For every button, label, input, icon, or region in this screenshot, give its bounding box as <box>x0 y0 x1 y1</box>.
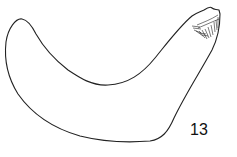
figure-drawing: 13 <box>0 0 237 157</box>
hair-fringe-icon <box>192 15 219 39</box>
figure-number: 13 <box>190 121 208 139</box>
